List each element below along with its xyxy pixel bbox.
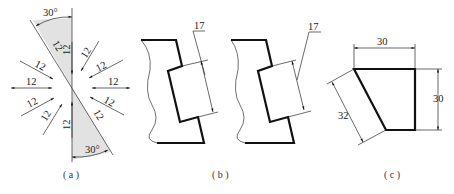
- dim-line-17: [292, 61, 304, 110]
- angle-label-top: 30°: [43, 7, 58, 18]
- trapezoid-outline: [354, 69, 415, 130]
- dim-label-vertical-bottom: 12: [61, 120, 72, 131]
- dim-label-17-right: 17: [308, 21, 319, 32]
- dim-label-17-left: 17: [194, 20, 205, 31]
- dimension-figure: 30° 30° 12 12 12 12 12 12 12 12 12 12 12…: [0, 0, 454, 194]
- dim-label-right-30: 30: [433, 93, 444, 104]
- dim-label-right-1: 12: [78, 45, 93, 60]
- dim-label-top-30: 30: [377, 36, 388, 47]
- caption-a: ( a ): [63, 169, 79, 181]
- part-outline: [231, 40, 294, 143]
- part-outline: [141, 40, 204, 143]
- break-line: [231, 40, 245, 143]
- panel-b-right: 17 ( b ): [212, 21, 321, 181]
- leader-line: [297, 32, 309, 80]
- angle-label-bottom: 30°: [85, 144, 100, 155]
- extension-line-top: [182, 60, 208, 66]
- dim-line-17: [201, 61, 213, 112]
- extension-line-slant-bottom: [358, 130, 386, 145]
- dim-label-right-2: 12: [94, 59, 108, 74]
- break-line: [141, 40, 157, 143]
- dim-label-right-3: 12: [108, 76, 119, 87]
- caption-c: ( c ): [384, 169, 400, 181]
- panel-a: 30° 30° 12 12 12 12 12 12 12 12 12 12 12…: [11, 7, 130, 181]
- dim-label-left-4: 12: [38, 108, 53, 123]
- extension-line-bottom: [198, 112, 218, 117]
- dim-label-left-1: 12: [33, 58, 47, 73]
- dim-label-slanted-bottom: 12: [91, 107, 106, 122]
- panel-c: 30 30 32 ( c ): [327, 36, 444, 181]
- dim-label-slant-32: 32: [338, 110, 349, 121]
- leader-line: [193, 31, 205, 75]
- panel-b-left: 17: [141, 20, 218, 143]
- extension-line-bottom: [288, 111, 311, 117]
- caption-b: ( b ): [212, 169, 229, 181]
- extension-line-slant-top: [327, 69, 354, 84]
- dim-label-left-2: 12: [26, 76, 37, 87]
- dim-label-right-4: 12: [102, 94, 116, 109]
